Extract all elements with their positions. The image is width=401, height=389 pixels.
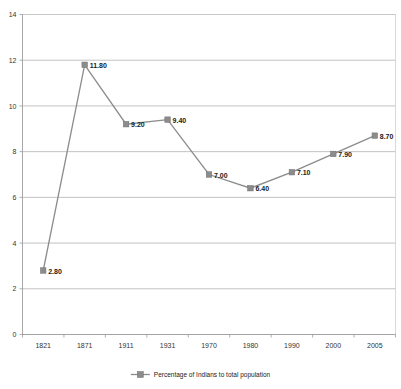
- data-point-label: 7.90: [338, 151, 352, 158]
- data-point-label: 9.40: [173, 117, 187, 124]
- y-tick-label: 10: [9, 103, 17, 110]
- x-tick-label: 1911: [119, 342, 134, 349]
- data-point-marker: [82, 62, 88, 68]
- data-point-marker: [40, 268, 46, 274]
- data-point-marker: [165, 117, 171, 123]
- y-tick-label: 8: [13, 148, 17, 155]
- y-tick-label: 6: [13, 194, 17, 201]
- x-tick-label: 2005: [367, 342, 383, 349]
- data-point-marker: [206, 172, 212, 178]
- data-point-label: 7.00: [214, 172, 228, 179]
- y-tick-label: 4: [13, 240, 17, 247]
- x-tick-label: 1990: [284, 342, 300, 349]
- x-tick-label: 1931: [160, 342, 176, 349]
- x-tick-label: 1970: [201, 342, 217, 349]
- data-point-label: 8.70: [380, 133, 394, 140]
- chart-background: [0, 0, 401, 389]
- legend-marker-swatch: [137, 372, 143, 378]
- y-tick-label: 0: [13, 331, 17, 338]
- legend-label: Percentage of Indians to total populatio…: [154, 371, 271, 379]
- data-point-marker: [331, 151, 337, 157]
- x-tick-label: 1871: [77, 342, 93, 349]
- x-tick-label: 1980: [243, 342, 259, 349]
- data-point-label: 2.80: [48, 268, 62, 275]
- data-point-label: 7.10: [297, 169, 311, 176]
- line-chart: 02468101214 1821187119111931197019801990…: [0, 0, 401, 389]
- data-point-label: 11.80: [90, 62, 107, 69]
- x-tick-label: 2000: [326, 342, 342, 349]
- data-point-label: 9.20: [131, 121, 145, 128]
- y-tick-label: 14: [9, 11, 17, 18]
- data-point-marker: [289, 169, 295, 175]
- y-tick-label: 2: [13, 285, 17, 292]
- x-tick-label: 1821: [35, 342, 51, 349]
- y-tick-label: 12: [9, 57, 17, 64]
- data-point-marker: [123, 121, 129, 127]
- data-point-marker: [372, 133, 378, 139]
- chart-canvas: 02468101214 1821187119111931197019801990…: [0, 0, 401, 389]
- data-point-marker: [248, 185, 254, 191]
- data-point-label: 6.40: [255, 185, 269, 192]
